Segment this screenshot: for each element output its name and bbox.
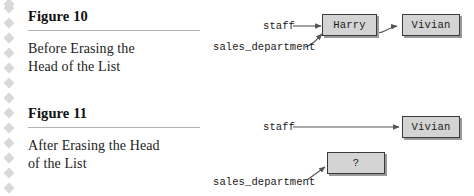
label-sales-department-figure-10: sales_department	[213, 42, 315, 53]
edge-harry-to-vivian	[377, 26, 397, 33]
node-unknown[interactable]: ?	[327, 152, 385, 174]
node-vivian-figure-10[interactable]: Vivian	[402, 14, 460, 36]
node-vivian-figure-11[interactable]: Vivian	[402, 116, 460, 138]
node-harry[interactable]: Harry	[322, 14, 377, 36]
diagram-area: staff sales_department Harry Vivian staf…	[0, 0, 474, 196]
label-sales-department-figure-11: sales_department	[213, 177, 315, 188]
label-staff-figure-10: staff	[263, 21, 295, 32]
node-harry-label: Harry	[333, 20, 366, 31]
node-vivian-label: Vivian	[411, 122, 450, 133]
node-vivian-label: Vivian	[411, 20, 450, 31]
node-unknown-label: ?	[353, 158, 360, 169]
label-staff-figure-11: staff	[263, 122, 295, 133]
